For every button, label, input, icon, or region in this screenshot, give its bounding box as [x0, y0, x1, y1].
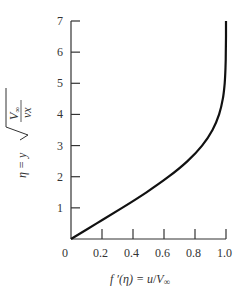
y-tick-label: 3 — [57, 139, 63, 153]
y-tick-label: 4 — [57, 107, 63, 121]
svg-text:νx: νx — [20, 107, 34, 118]
svg-text:η = y: η = y — [15, 152, 29, 178]
x-tick-label: 0.4 — [124, 246, 139, 260]
origin-label: 0 — [62, 246, 68, 260]
x-axis-title: f ′(η) = u/V∞ — [110, 272, 170, 287]
blasius-chart: 1234567 0.20.40.60.81.0 0 f ′(η) = u/V∞ … — [0, 0, 247, 292]
x-tick-label: 0.8 — [186, 246, 201, 260]
y-tick-label: 6 — [57, 45, 63, 59]
y-tick-label: 5 — [57, 76, 63, 90]
y-tick-label: 7 — [57, 14, 63, 28]
y-tick-label: 2 — [57, 170, 63, 184]
velocity-profile-curve — [71, 21, 226, 239]
x-tick-label: 0.6 — [155, 246, 170, 260]
x-ticks: 0.20.40.60.81.0 — [93, 229, 232, 260]
y-tick-label: 1 — [57, 201, 63, 215]
x-tick-label: 1.0 — [217, 246, 232, 260]
x-tick-label: 0.2 — [93, 246, 108, 260]
y-axis-title: η = y V∞ νx — [6, 88, 34, 178]
axes — [71, 21, 226, 239]
y-ticks: 1234567 — [57, 14, 80, 215]
